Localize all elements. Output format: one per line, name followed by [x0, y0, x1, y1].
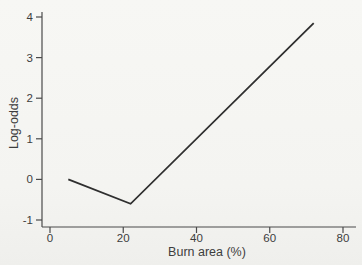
x-tick-label: 80: [337, 232, 350, 244]
y-tick-label: 1: [27, 133, 33, 145]
x-tick-label: 0: [47, 232, 53, 244]
y-axis-title: Log-odds: [7, 97, 21, 149]
y-tick-label: 4: [27, 11, 34, 23]
x-axis-title: Burn area (%): [168, 245, 246, 259]
ticks-layer: 020406080-101234: [23, 11, 350, 244]
y-tick-label: 3: [27, 52, 33, 64]
x-tick-label: 60: [263, 232, 276, 244]
chart-canvas: 020406080-101234 Burn area (%) Log-odds: [0, 0, 362, 265]
x-tick-label: 40: [190, 232, 203, 244]
data-series-layer: [68, 23, 313, 204]
x-tick-label: 20: [117, 232, 130, 244]
line-chart-figure: 020406080-101234 Burn area (%) Log-odds: [0, 0, 362, 265]
data-line: [68, 23, 313, 204]
y-tick-label: 2: [27, 92, 33, 104]
y-tick-label: -1: [23, 214, 33, 226]
y-tick-label: 0: [27, 173, 33, 185]
